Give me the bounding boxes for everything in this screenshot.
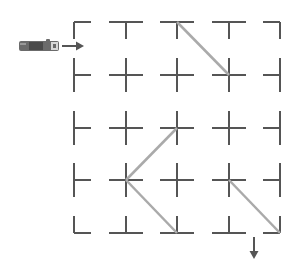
- grid-node: [74, 58, 91, 92]
- grid-node: [74, 216, 91, 233]
- mirror-line: [126, 180, 177, 233]
- grid-node: [263, 22, 280, 39]
- grid-node: [109, 216, 143, 233]
- grid-node: [160, 22, 194, 39]
- mirror-line: [177, 22, 229, 75]
- mirror-lines: [126, 22, 280, 233]
- grid-node: [74, 111, 91, 145]
- arrow-right-icon: [62, 42, 84, 51]
- arrow-head: [250, 251, 259, 259]
- mirror-grid-diagram: Light path through mirror grid: [0, 0, 296, 274]
- grid-node: [160, 216, 194, 233]
- grid-node: [74, 163, 91, 197]
- grid-node: [109, 58, 143, 92]
- grid-node: [263, 163, 280, 197]
- grid-node: [263, 58, 280, 92]
- flashlight-grip: [29, 42, 43, 50]
- flashlight-lens: [53, 44, 56, 48]
- arrow-down-icon: [250, 237, 259, 259]
- flashlight-switch: [46, 39, 50, 42]
- exit-arrow: [250, 237, 259, 259]
- flashlight-icon: [19, 39, 59, 51]
- grid-node: [109, 111, 143, 145]
- grid-node: [74, 22, 91, 39]
- grid-node: [212, 111, 246, 145]
- mirror-line: [126, 128, 177, 180]
- grid-node: [263, 111, 280, 145]
- grid-node: [160, 58, 194, 92]
- grid-node: [109, 22, 143, 39]
- mirror-line: [229, 180, 280, 233]
- arrow-head: [76, 42, 84, 51]
- grid-node: [160, 163, 194, 197]
- flashlight-highlight: [20, 43, 26, 45]
- grid-node: [212, 216, 246, 233]
- diagram-canvas: [0, 0, 296, 274]
- flashlight-source: [19, 39, 84, 51]
- grid-node: [212, 22, 246, 39]
